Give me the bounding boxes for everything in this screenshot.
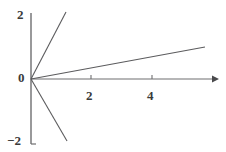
ray-steep-positive [31, 12, 66, 79]
x-axis-arrowhead-icon [212, 76, 219, 83]
origin-label: 0 [18, 71, 25, 84]
plot-graphics [0, 0, 226, 152]
ray-negative [31, 79, 67, 141]
x-axis-label-2: 2 [86, 89, 93, 102]
x-axis-label-4: 4 [147, 89, 154, 102]
plot-canvas: 2 0 −2 2 4 [0, 0, 226, 152]
ray-shallow-positive [31, 47, 205, 79]
y-axis-top-label: 2 [17, 8, 24, 21]
y-axis-bottom-label: −2 [7, 134, 21, 147]
